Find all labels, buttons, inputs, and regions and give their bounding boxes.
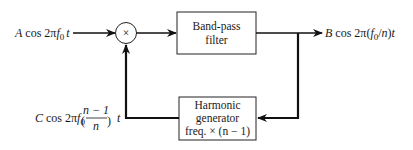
harmonic-label-line2: generator	[196, 112, 240, 125]
svg-text:): )	[107, 114, 111, 128]
multiply-symbol: ×	[123, 27, 130, 39]
input-signal-label: A cos 2πf0t	[14, 26, 70, 42]
fraction-numerator: n − 1	[83, 103, 109, 117]
bandpass-label-line2: filter	[205, 34, 228, 46]
bandpass-label-line1: Band-pass	[193, 20, 241, 33]
fraction-denominator: n	[93, 119, 99, 133]
svg-text:t: t	[117, 111, 121, 125]
harmonic-generator-block: Harmonic generator freq. × (n − 1)	[179, 97, 256, 140]
multiplier-node: ×	[116, 23, 137, 44]
bandpass-filter-block: Band-pass filter	[177, 12, 256, 54]
svg-text:C cos 2πf0: C cos 2πf0	[35, 111, 85, 127]
harmonic-label-line1: Harmonic	[195, 99, 241, 111]
feedback-branch-arrow	[258, 33, 298, 118]
feedback-return-arrow	[126, 45, 179, 118]
block-diagram: A cos 2πf0t × Band-pass filter B cos 2π(…	[0, 0, 413, 150]
output-signal-label: B cos 2π(f0/n)t	[325, 26, 396, 42]
harmonic-label-line3: freq. × (n − 1)	[185, 125, 250, 138]
feedback-signal-label: C cos 2πf0 ( n − 1 n ) t	[35, 103, 121, 133]
